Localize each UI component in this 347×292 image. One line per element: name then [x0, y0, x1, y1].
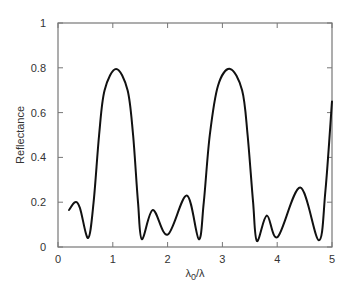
x-tick-label: 3 [219, 253, 225, 265]
y-tick-label: 1 [40, 17, 46, 29]
x-tick-label: 2 [165, 253, 171, 265]
x-axis-label: λ0/λ [185, 267, 205, 282]
y-tick-label: 0.4 [31, 151, 46, 163]
x-tick-label: 0 [55, 253, 61, 265]
x-tick-label: 5 [329, 253, 335, 265]
reflectance-chart: 01234500.20.40.60.81 λ0/λ Reflectance [0, 0, 347, 292]
y-tick-label: 0.2 [31, 196, 46, 208]
y-tick-label: 0.6 [31, 107, 46, 119]
y-axis-label: Reflectance [14, 106, 26, 164]
y-tick-label: 0 [40, 241, 46, 253]
x-tick-label: 4 [274, 253, 280, 265]
reflectance-curve [69, 69, 332, 241]
y-tick-label: 0.8 [31, 62, 46, 74]
tick-labels: 01234500.20.40.60.81 [31, 17, 335, 265]
x-tick-label: 1 [110, 253, 116, 265]
